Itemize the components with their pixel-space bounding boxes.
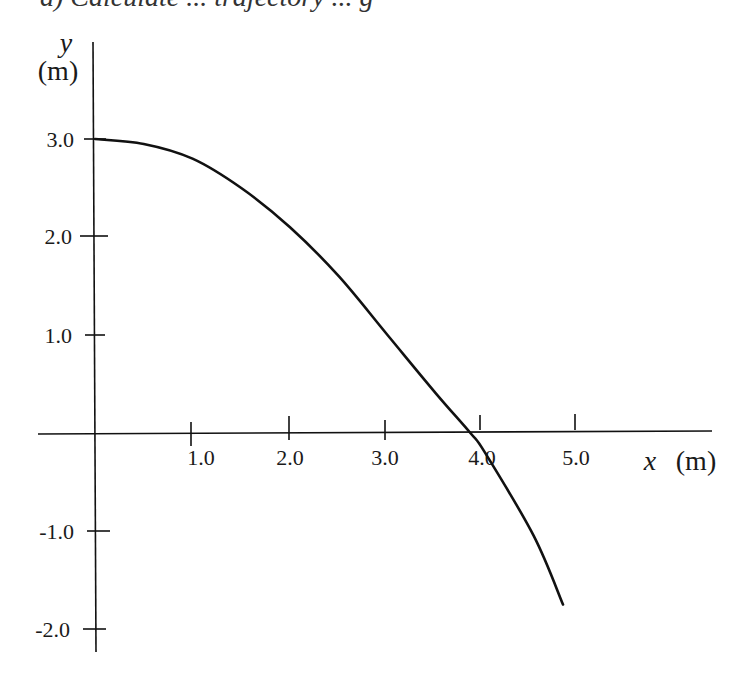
x-axis-label-unit: (m) (676, 445, 716, 476)
y-tick-label: -2.0 (35, 617, 70, 642)
y-axis (93, 42, 96, 652)
header-text: a) Calculate ... trajectory ... g (40, 0, 374, 12)
y-axis-label-var: y (57, 27, 73, 58)
y-axis-label-unit: (m) (38, 55, 78, 86)
x-tick-label: 5.0 (562, 445, 590, 470)
y-tick-label: 2.0 (45, 224, 73, 249)
chart: a) Calculate ... trajectory ... g 3.0 2.… (0, 0, 743, 681)
trajectory-curve (95, 139, 563, 605)
x-ticks (191, 414, 575, 446)
x-tick-label: 3.0 (371, 445, 399, 470)
x-axis-label-var: x (643, 445, 657, 476)
y-tick-label: 3.0 (47, 127, 75, 152)
x-axis (38, 431, 712, 434)
x-tick-label: 2.0 (276, 445, 304, 470)
y-tick-label: -1.0 (39, 519, 74, 544)
x-tick-label: 1.0 (187, 445, 215, 470)
y-tick-label: 1.0 (45, 323, 73, 348)
